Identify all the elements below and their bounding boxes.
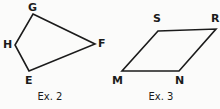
figure-caption-ex-2: Ex. 2 <box>20 91 80 102</box>
vertex-label-h: H <box>3 39 12 50</box>
figure-caption-ex-3: Ex. 3 <box>131 91 191 102</box>
parallelogram-mnrs-shape <box>122 29 216 71</box>
vertex-label-n: N <box>175 75 184 86</box>
vertex-label-e: E <box>25 75 33 86</box>
figure-panel: G F E H Ex. 2 S R N M Ex. 3 <box>0 0 220 109</box>
vertex-label-s: S <box>153 13 161 24</box>
vertex-label-f: F <box>98 38 106 49</box>
vertex-label-r: R <box>211 13 219 24</box>
vertex-label-g: G <box>28 2 37 13</box>
vertex-label-m: M <box>112 75 123 86</box>
quadrilateral-ghef-shape <box>15 14 95 71</box>
